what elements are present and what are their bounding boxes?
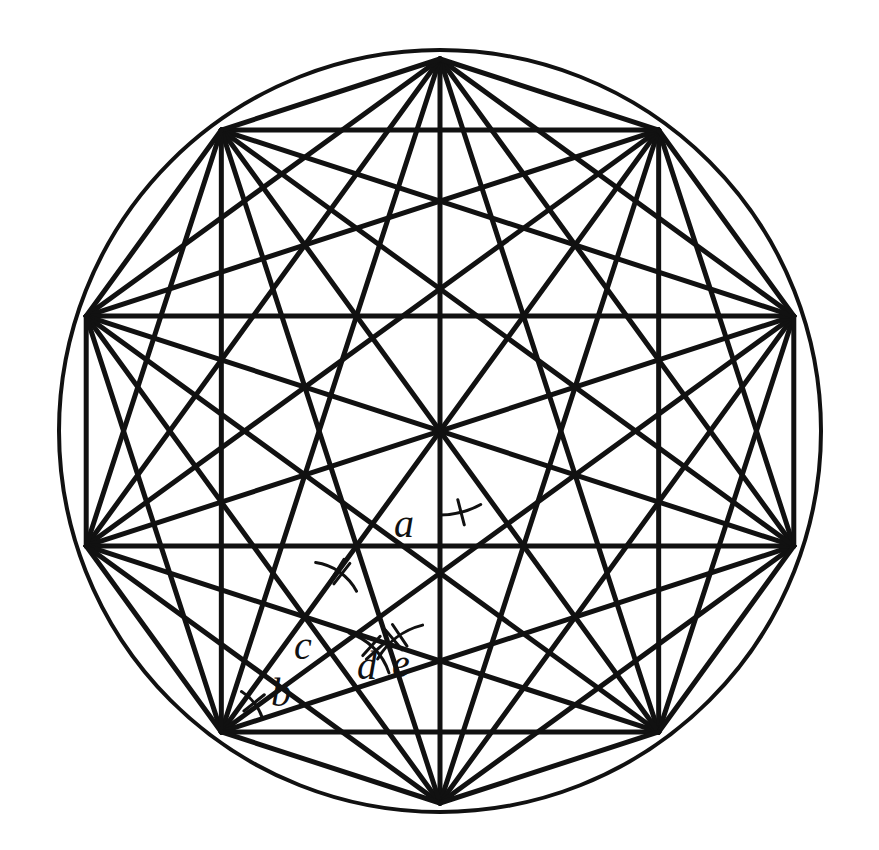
polygon-chord [221,130,793,546]
polygon-chord [86,130,221,546]
polygon-edge [440,732,659,803]
angle-label-c: c [294,623,312,668]
polygon-edge [659,546,794,732]
angle-annotation-a: a [394,500,481,546]
polygon-edge [221,59,440,130]
geometry-figure-canvas: abcde [0,0,879,850]
polygon-chord [86,316,221,732]
decagon-chord-diagram: abcde [0,0,879,850]
polygon-edge [659,130,794,316]
polygon-edge [221,732,440,803]
polygon-edge [440,59,659,130]
angle-label-b: b [271,670,291,715]
polygon-edge [86,130,221,316]
angle-label-a: a [394,501,414,546]
polygon-chord [86,546,440,803]
polygon-edge [86,546,221,732]
angle-label-d: d [357,643,378,688]
angle-label-e: e [392,641,410,686]
